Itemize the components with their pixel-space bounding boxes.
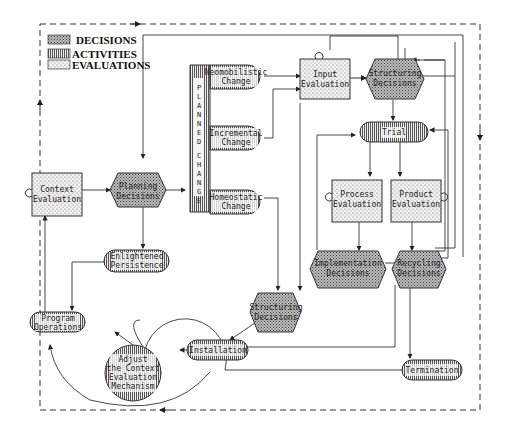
svg-text:the Context: the Context [107,364,160,373]
svg-text:N: N [197,111,201,119]
legend-swatch-activities [48,49,70,58]
svg-text:Enlightened: Enlightened [111,252,164,261]
node-implementation-decisions: Implementation Decisions [310,251,386,288]
svg-text:Trial: Trial [382,128,406,137]
svg-text:Decisions: Decisions [116,192,160,201]
svg-text:Change: Change [222,77,251,86]
svg-text:Neomobilistic: Neomobilistic [205,68,268,77]
node-homeostatic-change: Homeostatic Change [210,192,263,212]
svg-text:Decisions: Decisions [373,79,417,88]
svg-text:Homeostatic: Homeostatic [210,193,263,202]
node-context-evaluation: Context Evaluation [25,173,82,216]
node-installation: Installation [187,340,248,360]
svg-text:D: D [197,138,201,146]
svg-text:Change: Change [222,202,251,211]
svg-text:Installation: Installation [189,346,247,355]
svg-text:E: E [197,197,201,205]
node-input-evaluation: Input Evaluation [300,52,350,99]
node-planning-decisions: Planning Decisions [110,173,166,207]
svg-text:L: L [197,93,201,101]
svg-text:Termination: Termination [406,366,459,375]
svg-text:Structuring: Structuring [250,303,303,312]
svg-text:Planning: Planning [119,182,158,191]
svg-text:N: N [197,179,201,187]
svg-text:Input: Input [313,70,337,79]
node-program-operations: Program Operations [30,312,85,332]
svg-text:Adjust: Adjust [119,355,148,364]
svg-text:Change: Change [222,138,251,147]
svg-text:Operations: Operations [34,323,82,332]
svg-text:Evaluation: Evaluation [109,373,157,382]
svg-text:C: C [197,152,201,160]
node-termination: Termination [402,360,462,380]
svg-text:Product: Product [399,190,433,199]
node-trial: Trial [360,122,428,142]
legend-label-decisions: DECISIONS [76,34,137,46]
legend-swatch-evaluations [48,60,70,69]
svg-text:E: E [197,129,201,137]
svg-text:Evaluation: Evaluation [33,195,81,204]
svg-text:Program: Program [41,314,75,323]
node-recycling-decisions: Recycling Decisions [392,251,446,288]
svg-text:Incremental: Incremental [210,129,263,138]
legend: DECISIONS ACTIVITIES EVALUATIONS [48,34,150,71]
svg-text:P: P [197,84,201,92]
legend-swatch-decisions [48,35,70,44]
svg-text:Recycling: Recycling [397,259,441,268]
svg-text:Decisions: Decisions [254,313,298,322]
node-process-evaluation: Process Evaluation [325,180,382,222]
svg-text:G: G [197,188,201,196]
legend-label-evaluations: EVALUATIONS [72,59,150,71]
svg-text:Structuring: Structuring [369,69,422,78]
svg-text:Decisions: Decisions [397,269,441,278]
svg-text:H: H [197,161,201,169]
cipp-flow-diagram: DECISIONS ACTIVITIES EVALUATIONS Context… [0,0,527,437]
svg-text:Persistence: Persistence [111,261,164,270]
node-enlightened-persistence: Enlightened Persistence [104,250,169,272]
svg-text:Process: Process [340,190,374,199]
svg-text:Implementation: Implementation [314,259,382,268]
node-structuring-decisions-top: Structuring Decisions [366,59,424,99]
node-product-evaluation: Product Evaluation [391,180,448,222]
svg-text:Context: Context [40,185,74,194]
svg-text:Evaluation: Evaluation [301,80,349,89]
svg-text:Mechanism: Mechanism [111,382,155,391]
svg-text:N: N [197,120,201,128]
node-incremental-change: Incremental Change [210,128,263,148]
node-structuring-decisions-bottom: Structuring Decisions [250,293,303,332]
node-adjust-context-evaluation-mechanism: Adjust the Context Evaluation Mechanism [105,345,161,401]
svg-text:Evaluation: Evaluation [333,200,381,209]
svg-text:Evaluation: Evaluation [392,200,440,209]
svg-text:Decisions: Decisions [326,269,370,278]
